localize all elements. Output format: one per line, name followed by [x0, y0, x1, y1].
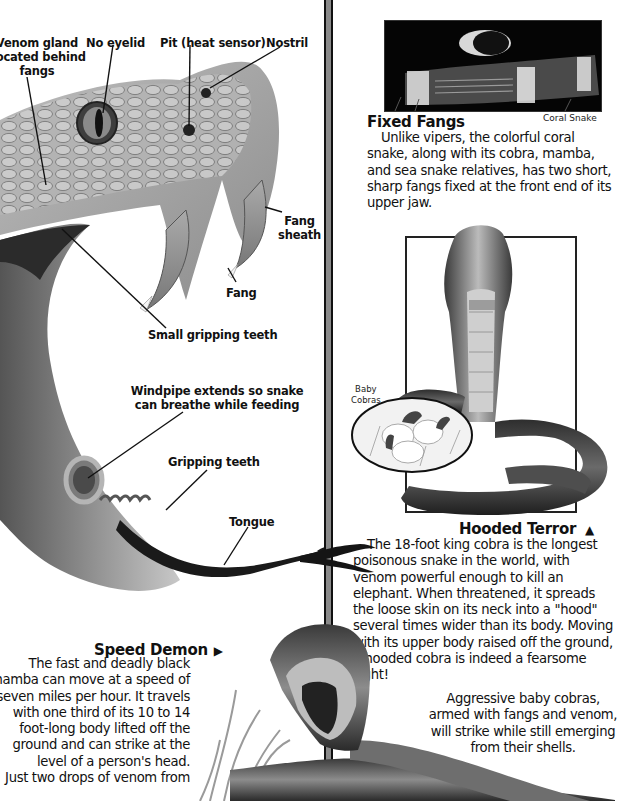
label-fang-sheath: Fang sheath: [278, 214, 321, 242]
label-no-eyelid: No eyelid: [86, 36, 145, 50]
coral-snake-caption: Coral Snake: [543, 113, 597, 123]
label-fang: Fang: [226, 286, 257, 300]
label-line: located behind: [0, 50, 82, 64]
label-tongue: Tongue: [229, 515, 274, 529]
text-line: ground and can strike at the: [0, 737, 190, 753]
black-mamba-illustration: [190, 620, 615, 801]
label-line: can breathe while feeding: [112, 398, 322, 412]
paragraph: Unlike vipers, the colorful coral snake,…: [367, 130, 617, 211]
coral-snake-image: [385, 21, 601, 111]
text-line: with one third of its 10 to 14: [0, 705, 190, 721]
coral-snake-photo: [384, 20, 602, 112]
baby-cobras-inset: [350, 396, 475, 474]
label-pit-heat-sensor: Pit (heat sensor): [160, 36, 265, 50]
label-venom-gland: Venom gland located behind fangs: [0, 36, 82, 78]
label-line: fangs: [0, 64, 82, 78]
caption-line: Cobras: [351, 395, 381, 406]
baby-cobras-caption: Baby Cobras: [351, 384, 381, 406]
text-line: Just two drops of venom from: [0, 770, 190, 786]
fixed-fangs-text: Unlike vipers, the colorful coral snake,…: [367, 130, 617, 211]
text-line: mamba can move at a speed of: [0, 672, 190, 688]
heading-text: Hooded Terror: [459, 520, 576, 538]
speed-demon-text: The fast and deadly black mamba can move…: [0, 656, 190, 786]
label-line: Fang: [278, 214, 321, 228]
text-line: foot-long body lifted off the: [0, 721, 190, 737]
text-line: The fast and deadly black: [0, 656, 190, 672]
king-cobra-illustration: [345, 222, 615, 522]
label-gripping-teeth: Gripping teeth: [168, 455, 260, 469]
text-line: level of a person's head.: [0, 754, 190, 770]
label-line: sheath: [278, 228, 321, 242]
label-line: Windpipe extends so snake: [112, 384, 322, 398]
label-line: Venom gland: [0, 36, 82, 50]
text-line: seven miles per hour. It travels: [0, 689, 190, 705]
label-nostril: Nostril: [266, 36, 308, 50]
fixed-fangs-heading: Fixed Fangs: [367, 113, 465, 131]
caption-line: Baby: [351, 384, 381, 395]
label-small-gripping-teeth: Small gripping teeth: [148, 328, 277, 342]
triangle-up-icon: ▲: [585, 523, 594, 537]
triangle-right-icon: ▶: [214, 644, 223, 658]
label-windpipe: Windpipe extends so snake can breathe wh…: [112, 384, 322, 412]
